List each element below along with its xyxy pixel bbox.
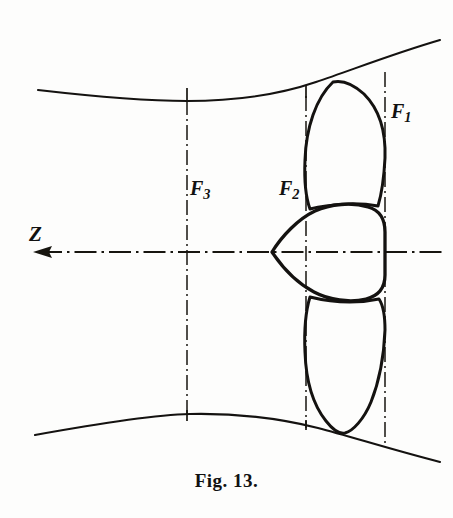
label-z-axis: Z	[29, 222, 42, 247]
figure-caption: Fig. 13.	[0, 470, 453, 492]
label-f3-base: F	[190, 177, 203, 199]
upper-duct-wall	[38, 40, 440, 101]
label-f1-subscript: 1	[404, 109, 411, 125]
label-z-base: Z	[29, 222, 42, 246]
label-f3-subscript: 3	[203, 186, 210, 202]
label-f2-subscript: 2	[292, 186, 299, 202]
lower-blade	[305, 297, 385, 433]
label-f1: F1	[391, 100, 412, 126]
label-f1-base: F	[391, 100, 404, 122]
label-f2-base: F	[279, 177, 292, 199]
lower-duct-wall	[35, 414, 440, 462]
technical-diagram	[0, 0, 453, 518]
label-f3: F3	[190, 177, 211, 203]
label-f2: F2	[279, 177, 300, 203]
upper-blade	[305, 82, 385, 210]
figure-root: F1 F2 F3 Z Fig. 13.	[0, 0, 453, 518]
